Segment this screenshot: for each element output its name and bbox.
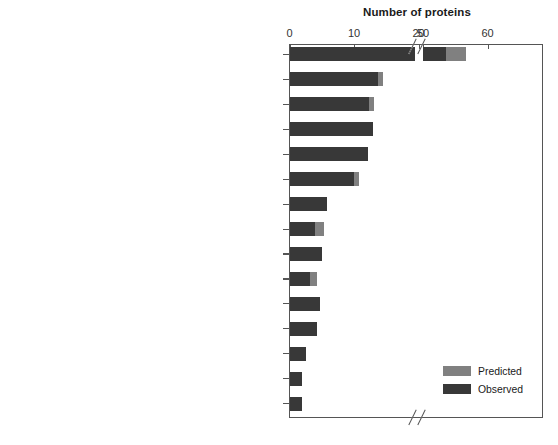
bar-observed-lower-0 [290,47,416,61]
bar-observed-upper-0 [423,47,446,61]
y-tick-mark-6 [283,204,289,205]
y-tick-mark-2 [283,104,289,105]
bar-observed-14 [290,397,303,411]
bar-predicted-5 [354,172,359,186]
y-tick-mark-4 [283,154,289,155]
legend-swatch-predicted [443,366,471,376]
bar-observed-3 [290,122,373,136]
y-tick-mark-0 [283,54,289,55]
x-tick-label-60: 60 [481,27,493,39]
bar-observed-8 [290,247,323,261]
bar-observed-10 [290,297,321,311]
bar-predicted-1 [378,72,383,86]
bar-observed-2 [290,97,369,111]
bar-observed-12 [290,347,306,361]
legend-label-observed: Observed [478,384,523,395]
bar-predicted-2 [369,97,374,111]
bar-observed-9 [290,272,311,286]
protein-function-bar-chart: Number of proteins 010205060 Protein syn… [0,0,558,445]
bar-predicted-0 [446,47,467,61]
bar-observed-7 [290,222,316,236]
bar-observed-11 [290,322,318,336]
legend-swatch-observed [443,384,471,394]
bar-observed-6 [290,197,327,211]
bar-predicted-7 [315,222,324,236]
bar-observed-13 [290,372,302,386]
x-tick-mark-60 [488,44,489,49]
legend-item-predicted: Predicted [443,363,523,379]
y-tick-mark-10 [283,303,289,304]
x-tick-label-10: 10 [348,27,360,39]
y-tick-mark-1 [283,79,289,80]
y-tick-mark-3 [283,129,289,130]
bar-observed-4 [290,147,368,161]
y-tick-mark-14 [283,403,289,404]
y-tick-mark-8 [283,253,289,254]
x-tick-label-50: 50 [417,27,429,39]
legend-label-predicted: Predicted [478,366,522,377]
y-tick-mark-5 [283,179,289,180]
bar-predicted-9 [310,272,317,286]
y-tick-mark-9 [283,278,289,279]
y-tick-mark-12 [283,353,289,354]
legend-item-observed: Observed [443,381,523,397]
y-tick-mark-7 [283,229,289,230]
bar-observed-1 [290,72,378,86]
bar-observed-5 [290,172,355,186]
x-tick-label-0: 0 [286,27,292,39]
y-tick-mark-11 [283,328,289,329]
y-tick-mark-13 [283,378,289,379]
chart-title: Number of proteins [290,6,544,18]
chart-legend: Predicted Observed [443,363,523,399]
